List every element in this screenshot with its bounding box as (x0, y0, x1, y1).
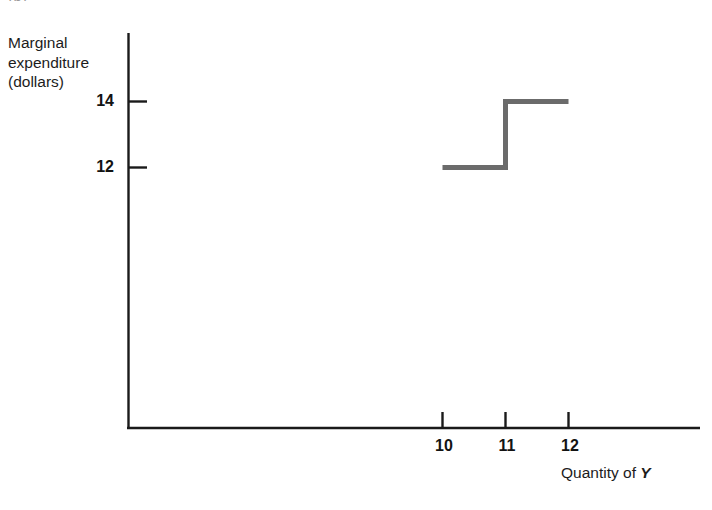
plot-area (0, 0, 712, 510)
figure-container: (b) Marginal expenditure (dollars) 14 12… (0, 0, 712, 510)
marginal-expenditure-step-curve (443, 102, 569, 168)
